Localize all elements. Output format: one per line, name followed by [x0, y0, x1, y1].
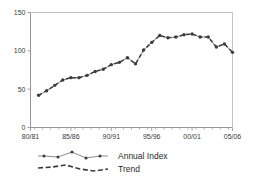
data-point-marker	[142, 48, 145, 51]
data-point-marker	[77, 76, 80, 79]
y-tick-label: 50	[18, 86, 26, 93]
data-point-marker	[61, 78, 64, 81]
data-point-marker	[85, 74, 88, 77]
legend-marker-dot	[99, 155, 102, 158]
data-point-marker	[93, 70, 96, 73]
legend-swatch-trend	[38, 165, 108, 171]
data-point-marker	[223, 42, 226, 45]
data-point-marker	[134, 62, 137, 65]
data-point-marker	[118, 61, 121, 64]
data-point-marker	[37, 94, 40, 97]
legend-marker-dot	[85, 157, 88, 160]
legend-label-trend: Trend	[118, 164, 140, 174]
data-point-marker	[190, 32, 193, 35]
data-point-marker	[182, 33, 185, 36]
data-point-marker	[231, 51, 234, 54]
data-point-marker	[102, 68, 105, 71]
data-point-marker	[174, 35, 177, 38]
legend-label-annual-index: Annual Index	[118, 151, 168, 161]
x-tick-label: 90/91	[103, 133, 121, 140]
data-point-marker	[158, 34, 161, 37]
x-tick-label: 95/96	[143, 133, 161, 140]
legend-marker-dot	[43, 155, 46, 158]
x-tick-label: 80/81	[22, 133, 40, 140]
x-tick-label: 85/86	[62, 133, 80, 140]
y-tick-label: 0	[22, 124, 26, 131]
y-tick-label: 100	[14, 47, 26, 54]
x-tick-label: 00/01	[183, 133, 201, 140]
data-point-marker	[126, 56, 129, 59]
data-point-marker	[53, 84, 56, 87]
data-point-markers	[37, 32, 234, 97]
data-point-marker	[207, 35, 210, 38]
y-tick-label: 150	[14, 9, 26, 16]
plot-frame	[31, 13, 233, 128]
data-point-marker	[166, 36, 169, 39]
chart-legend: Annual IndexTrend	[38, 151, 168, 175]
legend-marker-dot	[71, 151, 74, 154]
x-tick-label: 05/06	[224, 133, 242, 140]
data-point-marker	[215, 45, 218, 48]
x-axis-tick-labels: 80/8185/8690/9195/9600/0105/06	[22, 133, 242, 140]
y-axis-tick-labels: 050100150	[14, 9, 26, 131]
data-point-marker	[69, 76, 72, 79]
data-point-marker	[150, 41, 153, 44]
data-point-marker	[198, 35, 201, 38]
data-point-marker	[110, 63, 113, 66]
line-chart: 050100150 80/8185/8690/9195/9600/0105/06…	[0, 0, 257, 179]
legend-marker-dot	[57, 156, 60, 159]
data-point-marker	[45, 89, 48, 92]
chart-container: 050100150 80/8185/8690/9195/9600/0105/06…	[0, 0, 257, 179]
